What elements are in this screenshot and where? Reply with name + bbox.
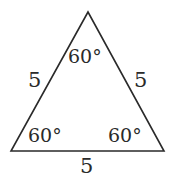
- side-label-bottom: 5: [80, 154, 93, 176]
- angle-label-top: 60°: [68, 45, 102, 67]
- angle-label-bottom-right: 60°: [108, 124, 142, 146]
- triangle-diagram: 60° 60° 60° 5 5 5: [0, 0, 178, 176]
- angle-label-bottom-left: 60°: [28, 124, 62, 146]
- side-label-left: 5: [28, 68, 41, 92]
- side-label-right: 5: [134, 68, 147, 92]
